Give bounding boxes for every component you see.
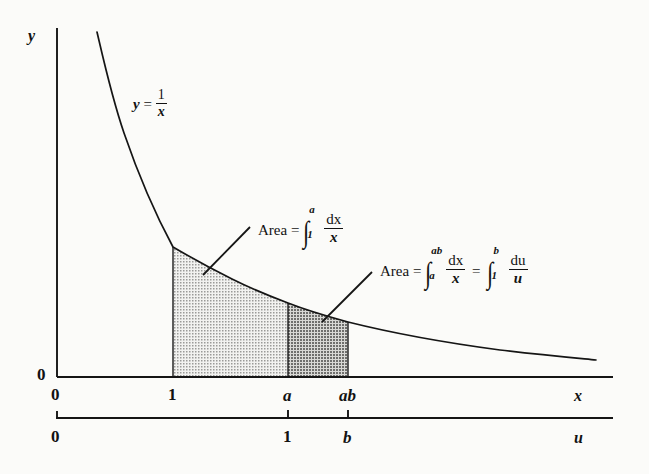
curve-equation-numerator: 1 (156, 88, 167, 104)
integral-upper-limit-second: ab (431, 245, 442, 256)
u-tick-label-0: 0 (51, 428, 60, 445)
area-label-second: Area (380, 263, 409, 279)
u-axis-name-label: u (574, 430, 583, 446)
area-equals-second-2: = (472, 263, 480, 279)
integral-upper-limit-first: a (309, 204, 315, 215)
x-tick-label-0: 0 (51, 386, 60, 403)
u-tick-label-b: b (343, 429, 352, 446)
integrand-third: du u (509, 253, 528, 286)
curve-equation-y: y (133, 96, 140, 112)
integral-upper-limit-third: b (494, 245, 500, 256)
area-annotation-first: Area = ∫a1 dx x (258, 212, 343, 247)
integrand-second: dx x (446, 253, 465, 286)
integrand-numerator-second: dx (446, 253, 465, 270)
integrand-denominator-third: u (509, 270, 528, 287)
leader-line-area-2 (322, 272, 372, 322)
integral-limits-first: a1 (309, 220, 323, 235)
y-axis-label: y (28, 28, 35, 44)
integrand-denominator-first: x (324, 229, 343, 246)
y-axis-zero-label: 0 (37, 366, 46, 383)
shaded-area-1-to-a (173, 247, 288, 377)
x-tick-label-a: a (283, 387, 292, 404)
curve-equation-denominator: x (156, 104, 167, 119)
integrand-numerator-third: du (509, 253, 528, 270)
x-axis-name-label: x (574, 388, 582, 404)
integrand-first: dx x (324, 212, 343, 245)
integral-limits-third: b1 (494, 261, 508, 276)
x-tick-label-ab: ab (339, 387, 356, 404)
curve-equation-equals: = (143, 96, 151, 112)
integrand-denominator-second: x (446, 270, 465, 287)
integrand-numerator-first: dx (324, 212, 343, 229)
area-annotation-second: Area = ∫aba dx x = ∫b1 du u (380, 253, 528, 288)
area-equals-second: = (413, 263, 421, 279)
area-label-first: Area (258, 222, 287, 238)
integral-lower-limit-first: 1 (307, 229, 313, 240)
curve-equation: y = 1 x (133, 88, 167, 119)
integral-limits-second: aba (431, 261, 445, 276)
integral-lower-limit-second: a (429, 270, 435, 281)
hyperbola-curve (97, 32, 596, 360)
x-tick-label-1: 1 (168, 386, 177, 403)
curve-equation-fraction: 1 x (156, 88, 167, 119)
logarithm-area-figure: y 0 y = 1 x Area = ∫a1 dx x Area = ∫aba … (0, 0, 649, 474)
area-equals-first: = (291, 222, 299, 238)
integral-lower-limit-third: 1 (492, 270, 498, 281)
leader-line-area-1 (203, 227, 250, 275)
u-tick-label-1: 1 (283, 428, 292, 445)
